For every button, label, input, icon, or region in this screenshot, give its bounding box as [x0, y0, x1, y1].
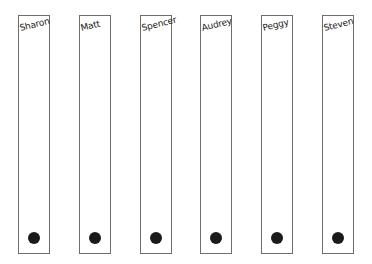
- marker-dot[interactable]: [28, 232, 40, 244]
- lane-label: Spencer: [141, 15, 178, 33]
- lane-audrey: Audrey: [200, 15, 232, 254]
- lane-label: Audrey: [201, 16, 233, 33]
- lane-spencer: Spencer: [140, 15, 172, 254]
- lane-steven: Steven: [322, 15, 354, 254]
- marker-dot[interactable]: [150, 232, 162, 244]
- lane-sharon: Sharon: [18, 15, 50, 254]
- lane-matt: Matt: [79, 15, 111, 254]
- marker-dot[interactable]: [89, 232, 101, 244]
- lane-label: Sharon: [19, 16, 51, 33]
- marker-dot[interactable]: [271, 232, 283, 244]
- lane-label: Matt: [80, 19, 101, 33]
- lane-label: Peggy: [262, 17, 290, 33]
- lane-peggy: Peggy: [261, 15, 293, 254]
- marker-dot[interactable]: [332, 232, 344, 244]
- marker-dot[interactable]: [210, 232, 222, 244]
- lane-label: Steven: [323, 16, 355, 33]
